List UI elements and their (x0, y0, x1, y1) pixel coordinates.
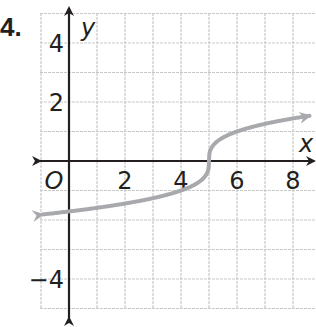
y-axis-label: y (80, 14, 96, 42)
cube-root-curve (42, 116, 309, 215)
y-tick-label: 2 (49, 89, 64, 117)
x-axis-label: x (298, 130, 314, 158)
function-graph: 246842−4Oxy (0, 0, 316, 327)
y-tick-label: −4 (29, 266, 64, 294)
x-tick-label: 8 (285, 167, 300, 195)
x-tick-label: 2 (117, 167, 132, 195)
tick-labels: 246842−4Oxy (29, 14, 314, 294)
origin-label: O (45, 167, 64, 195)
axes (40, 8, 314, 318)
y-tick-label: 4 (49, 30, 64, 58)
x-tick-label: 6 (229, 167, 244, 195)
